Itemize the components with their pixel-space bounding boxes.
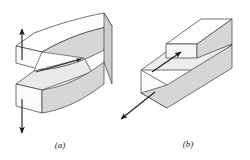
front-shear-arrow <box>121 92 155 119</box>
caption-panel-a: (a) <box>40 140 80 150</box>
upper-block-notch-face <box>166 44 197 58</box>
beam-right-end-face <box>104 13 112 84</box>
panel-b-mode-ii <box>121 19 232 119</box>
caption-panel-b: (b) <box>168 139 208 149</box>
panel-a-mode-i <box>16 13 112 133</box>
beam-right-end <box>104 13 112 84</box>
fracture-mode-figure <box>0 0 250 160</box>
